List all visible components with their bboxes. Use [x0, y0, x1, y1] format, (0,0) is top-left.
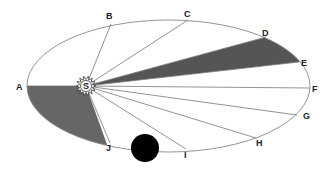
sun-label: S: [83, 81, 89, 91]
point-label-e: E: [301, 58, 307, 68]
point-label-g: G: [303, 111, 310, 121]
planet: [131, 134, 159, 162]
point-label-h: H: [256, 138, 263, 148]
radius-line-b: [86, 24, 111, 86]
point-label-f: F: [312, 84, 318, 94]
point-label-a: A: [16, 82, 23, 92]
shaded-sector-de: [86, 38, 300, 86]
shaded-sector-aj: [27, 86, 107, 146]
radius-line-g: [86, 86, 297, 115]
point-label-d: D: [262, 28, 269, 38]
kepler-orbit-diagram: S ABCDEFGHIJ: [0, 0, 327, 174]
shaded-equal-area-sectors: [27, 38, 300, 146]
radius-line-h: [86, 86, 256, 138]
point-label-b: B: [106, 11, 113, 21]
point-label-i: I: [184, 150, 187, 160]
point-label-j: J: [106, 143, 111, 153]
point-label-c: C: [184, 9, 191, 19]
radius-line-f: [86, 86, 310, 88]
